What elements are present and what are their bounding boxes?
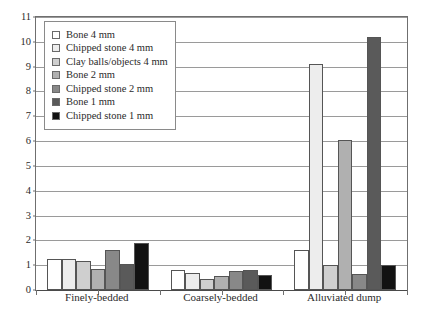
legend-item-label: Bone 4 mm	[66, 30, 115, 41]
bar	[214, 276, 229, 290]
y-axis-tick-label: 5	[26, 161, 31, 172]
y-axis-tick-label: 1	[26, 260, 31, 271]
bar	[243, 270, 258, 290]
bar	[323, 265, 338, 290]
x-axis-category-label: Alluviated dump	[307, 292, 381, 303]
y-axis-tick-label: 11	[21, 12, 31, 23]
legend-swatch-icon	[52, 71, 60, 79]
bar	[76, 261, 91, 290]
y-axis-tick-label: 8	[26, 86, 31, 97]
y-axis-tick-label: 6	[26, 136, 31, 147]
bar	[229, 271, 244, 290]
y-axis-tick-label: 3	[26, 210, 31, 221]
bar	[294, 250, 309, 290]
legend-swatch-icon	[52, 44, 60, 52]
y-axis-tick-label: 4	[26, 185, 31, 196]
legend-swatch-icon	[52, 85, 60, 93]
legend-items: Bone 4 mmChipped stone 4 mmClay balls/ob…	[52, 28, 168, 123]
bar	[258, 275, 273, 290]
x-axis-tick-mark	[407, 290, 408, 295]
legend-swatch-icon	[52, 58, 60, 66]
legend-swatch-icon	[52, 112, 60, 120]
bar	[134, 243, 149, 290]
legend-item: Chipped stone 2 mm	[52, 82, 168, 96]
x-axis-category-label: Finely-bedded	[65, 292, 129, 303]
x-axis-tick-mark	[283, 290, 284, 295]
bar	[185, 273, 200, 290]
legend-swatch-icon	[52, 31, 60, 39]
y-axis-tick-label: 7	[26, 111, 31, 122]
legend-item-label: Chipped stone 1 mm	[66, 111, 153, 122]
legend-item-label: Bone 1 mm	[66, 97, 115, 108]
legend-item: Bone 2 mm	[52, 69, 168, 83]
bar	[47, 259, 62, 290]
legend-item-label: Clay balls/objects 4 mm	[66, 57, 168, 68]
bar	[352, 274, 367, 290]
legend-item: Chipped stone 4 mm	[52, 42, 168, 56]
legend-item: Chipped stone 1 mm	[52, 109, 168, 123]
bar	[309, 64, 324, 290]
x-axis-tick-mark	[160, 290, 161, 295]
bar	[62, 259, 77, 290]
y-axis-tick-label: 0	[26, 285, 31, 296]
bar	[105, 250, 120, 290]
bar	[338, 140, 353, 290]
y-axis-tick-label: 9	[26, 61, 31, 72]
bar	[367, 37, 382, 290]
legend-item: Clay balls/objects 4 mm	[52, 55, 168, 69]
y-axis-tick-label: 2	[26, 235, 31, 246]
bar	[381, 265, 396, 290]
x-axis-tick-mark	[36, 290, 37, 295]
bar	[91, 269, 106, 290]
bar	[171, 270, 186, 290]
bar	[120, 264, 135, 290]
bar-chart: 01234567891011 Finely-beddedCoarsely-bed…	[0, 0, 423, 323]
x-axis-category-label: Coarsely-bedded	[183, 292, 258, 303]
legend-item-label: Bone 2 mm	[66, 70, 115, 81]
legend-item: Bone 4 mm	[52, 28, 168, 42]
legend-item: Bone 1 mm	[52, 96, 168, 110]
bar	[200, 279, 215, 290]
chart-legend: Bone 4 mmChipped stone 4 mmClay balls/ob…	[44, 21, 176, 130]
legend-item-label: Chipped stone 4 mm	[66, 43, 153, 54]
y-axis-tick-label: 10	[21, 37, 32, 48]
legend-item-label: Chipped stone 2 mm	[66, 84, 153, 95]
legend-swatch-icon	[52, 98, 60, 106]
